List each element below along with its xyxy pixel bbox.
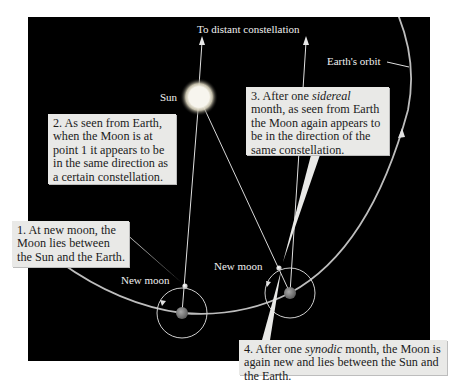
moon-position-2 xyxy=(276,265,281,270)
distant-constellation-label: To distant constellation xyxy=(197,23,300,35)
sidereal-synodic-month-diagram: To distant constellation Sun Earth's orb… xyxy=(0,0,453,385)
callout-3-post: month, as seen from Earth the Moon again… xyxy=(251,102,380,156)
callout-3-pre: 3. After one xyxy=(251,89,312,103)
callout-constellation-direction: 2. As seen from Earth, when the Moon is … xyxy=(48,114,176,184)
callout-sidereal-month: 3. After one sidereal month, as seen fro… xyxy=(246,87,389,155)
callout-4-pre: 4. After one xyxy=(244,342,305,356)
space-background xyxy=(28,17,430,361)
earths-orbit-label: Earth's orbit xyxy=(327,55,381,67)
sun xyxy=(189,87,210,108)
callout-synodic-month: 4. After one synodic month, the Moon is … xyxy=(239,340,447,375)
new-moon-label-1: New moon xyxy=(121,274,170,286)
new-moon-label-2: New moon xyxy=(214,260,263,272)
moon-position-1 xyxy=(182,283,187,288)
callout-1-text: 1. At new moon, the Moon lies between th… xyxy=(17,223,125,264)
callout-3-em: sidereal xyxy=(312,89,351,103)
callout-2-text: 2. As seen from Earth, when the Moon is … xyxy=(53,116,168,184)
callout-4-em: synodic xyxy=(305,342,342,356)
sun-label: Sun xyxy=(160,91,178,103)
earth-position-2 xyxy=(284,287,296,299)
callout-new-moon: 1. At new moon, the Moon lies between th… xyxy=(12,221,129,267)
earth-position-1 xyxy=(176,307,188,319)
